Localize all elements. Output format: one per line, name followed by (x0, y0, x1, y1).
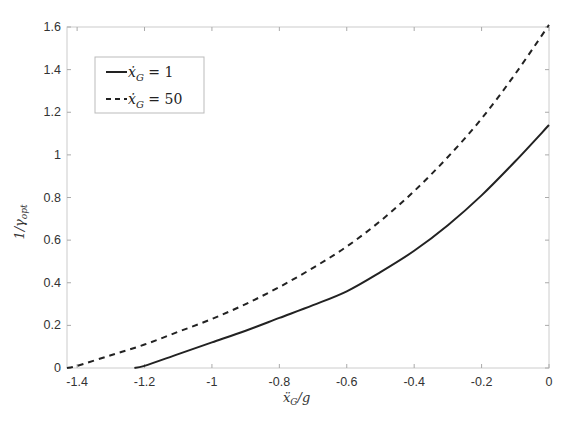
y-tick-label: 1.2 (44, 105, 61, 119)
legend: ẋG = 1 ẋG = 50 (95, 57, 204, 113)
x-tick-label: -0.6 (336, 375, 358, 389)
y-tick-label: 0.6 (44, 233, 61, 247)
x-tick-label: 0 (546, 375, 553, 389)
y-tick-label: 0.4 (44, 276, 61, 290)
y-tick-label: 0.2 (44, 318, 61, 332)
y-tick-label: 1.6 (44, 20, 61, 34)
y-tick-label: 1 (54, 148, 61, 162)
x-axis-label: ẍG/g (283, 390, 310, 407)
y-tick-label: 0 (54, 361, 61, 375)
x-tick-label: -0.4 (403, 375, 425, 389)
x-tick-label: -1 (206, 375, 217, 389)
x-tick-label: -0.8 (269, 375, 291, 389)
x-tick-label: -0.2 (471, 375, 493, 389)
y-tick-label: 1.4 (44, 63, 61, 77)
y-tick-label: 0.8 (44, 191, 61, 205)
x-tick-label: -1.4 (66, 375, 88, 389)
x-tick-label: -1.2 (134, 375, 156, 389)
y-axis-label: 1/γopt (12, 204, 29, 240)
chart: -1.4-1.2-1-0.8-0.6-0.4-0.20 00.20.40.60.… (0, 0, 583, 424)
